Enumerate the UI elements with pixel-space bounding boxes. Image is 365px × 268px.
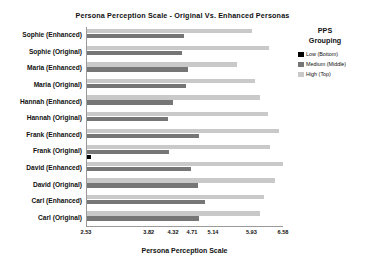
bar-medium (87, 200, 205, 204)
legend-item: High (Top) (298, 70, 365, 79)
y-axis-label: Carl (Original) (2, 214, 82, 221)
x-axis-line (86, 226, 283, 227)
bar-medium (87, 150, 169, 154)
bar-medium (87, 84, 186, 88)
y-axis-label: David (Enhanced) (2, 164, 82, 171)
y-axis-label: Frank (Original) (2, 147, 82, 154)
legend-items: Low (Bottom)Medium (Middle)High (Top) (292, 50, 365, 79)
bar-group (87, 160, 283, 177)
legend-item: Low (Bottom) (298, 50, 365, 59)
bar-high (87, 29, 252, 33)
legend-title-line1: PPS (292, 26, 358, 36)
y-axis-label: Maria (Original) (2, 81, 82, 88)
bar-medium (87, 216, 199, 220)
x-tick-label: 4.32 (168, 229, 179, 235)
bar-high (87, 195, 264, 199)
bar-high (87, 95, 260, 99)
bar-group (87, 176, 283, 193)
bar-group (87, 44, 283, 61)
bar-rows (87, 27, 283, 226)
plot-area (86, 27, 283, 226)
x-tick-label: 5.93 (246, 229, 257, 235)
bar-high (87, 145, 270, 149)
bar-group (87, 93, 283, 110)
bar-medium (87, 183, 198, 187)
x-axis-title: Persona Perception Scale (86, 247, 283, 254)
bar-high (87, 62, 237, 66)
legend-label: Medium (Middle) (306, 61, 346, 67)
bar-group (87, 27, 283, 44)
x-tick-label: 2.53 (81, 229, 92, 235)
x-tick-label: 4.71 (187, 229, 198, 235)
bar-medium (87, 67, 188, 71)
bar-high (87, 79, 255, 83)
legend-title-line2: Grouping (292, 36, 358, 46)
bar-high (87, 178, 275, 182)
legend-swatch-icon (298, 72, 304, 78)
bar-high (87, 162, 283, 166)
bar-group (87, 209, 283, 226)
legend: PPS Grouping Low (Bottom)Medium (Middle)… (292, 26, 365, 80)
legend-swatch-icon (298, 62, 304, 68)
bar-group (87, 110, 283, 127)
bar-medium (87, 167, 191, 171)
bar-group (87, 143, 283, 160)
chart-title: Persona Perception Scale - Original Vs. … (0, 11, 365, 20)
y-axis-label: Frank (Enhanced) (2, 131, 82, 138)
y-axis-label: Carl (Enhanced) (2, 197, 82, 204)
legend-label: Low (Bottom) (306, 51, 338, 57)
x-tick-label: 3.82 (143, 229, 154, 235)
bar-medium (87, 51, 182, 55)
bar-group (87, 127, 283, 144)
y-axis-label: Hannah (Original) (2, 114, 82, 121)
legend-title: PPS Grouping (292, 26, 358, 45)
y-axis-label: Sophie (Original) (2, 48, 82, 55)
bar-group (87, 77, 283, 94)
bar-medium (87, 117, 168, 121)
legend-item: Medium (Middle) (298, 60, 365, 69)
y-axis-label: Sophie (Enhanced) (2, 31, 82, 38)
x-tick-label: 6.58 (278, 229, 289, 235)
bar-medium (87, 134, 199, 138)
chart-container: Persona Perception Scale - Original Vs. … (0, 0, 365, 268)
y-axis-label: David (Original) (2, 181, 82, 188)
bar-medium (87, 34, 184, 38)
y-axis-label: Maria (Enhanced) (2, 64, 82, 71)
bar-group (87, 193, 283, 210)
y-axis-label: Hannah (Enhanced) (2, 98, 82, 105)
bar-medium (87, 100, 173, 104)
bar-high (87, 129, 279, 133)
legend-label: High (Top) (306, 71, 331, 77)
bar-group (87, 60, 283, 77)
bar-high (87, 46, 269, 50)
legend-swatch-icon (298, 52, 304, 58)
bar-high (87, 112, 268, 116)
bar-high (87, 211, 260, 215)
x-tick-label: 5.14 (208, 229, 219, 235)
